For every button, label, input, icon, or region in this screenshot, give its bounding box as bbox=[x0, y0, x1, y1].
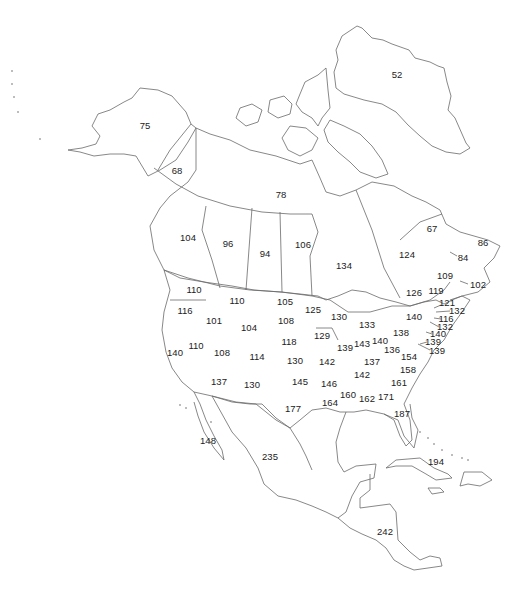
usa-outline bbox=[162, 270, 470, 446]
region-label-wisconsin: 130 bbox=[331, 312, 347, 322]
region-label-new-mexico: 130 bbox=[244, 380, 260, 390]
alaska-outline bbox=[68, 88, 196, 176]
region-label-virginia: 154 bbox=[401, 352, 417, 362]
ontario-quebec-border bbox=[356, 190, 400, 298]
region-label-manitoba: 106 bbox=[295, 240, 311, 250]
region-label-mexico: 235 bbox=[262, 452, 278, 462]
region-label-washington: 110 bbox=[186, 285, 201, 295]
region-label-louisiana: 164 bbox=[322, 398, 338, 408]
region-label-cuba-caribbean: 194 bbox=[428, 457, 444, 467]
region-label-iowa: 129 bbox=[314, 331, 330, 341]
region-label-alabama: 162 bbox=[359, 394, 375, 404]
region-label-quebec: 124 bbox=[399, 250, 415, 260]
pointer-84 bbox=[450, 252, 457, 256]
region-label-maine: 119 bbox=[428, 286, 443, 296]
region-label-nevada: 110 bbox=[188, 341, 203, 351]
region-label-pennsylvania: 138 bbox=[393, 328, 409, 338]
region-label-mississippi: 160 bbox=[340, 390, 356, 400]
region-label-arizona: 137 bbox=[211, 377, 227, 387]
region-label-georgia: 171 bbox=[378, 392, 394, 402]
region-label-wyoming: 104 bbox=[241, 323, 257, 333]
region-label-baja-california: 148 bbox=[200, 436, 216, 446]
region-label-newfoundland: 86 bbox=[478, 238, 489, 248]
region-label-new-york: 140 bbox=[406, 312, 422, 322]
region-label-new-brunswick: 109 bbox=[437, 271, 453, 281]
jamaica-outline bbox=[428, 488, 444, 494]
hispaniola-outline bbox=[460, 472, 492, 486]
bc-alberta-border bbox=[202, 206, 220, 288]
region-label-arkansas: 146 bbox=[321, 379, 337, 389]
region-label-nwt-nunavut: 78 bbox=[276, 190, 287, 200]
region-label-british-columbia: 104 bbox=[180, 233, 196, 243]
region-label-maryland: 139 bbox=[429, 346, 445, 356]
region-label-oklahoma: 145 bbox=[292, 377, 308, 387]
manitoba-ontario-border bbox=[310, 214, 318, 296]
region-label-oregon: 116 bbox=[177, 306, 192, 316]
pointer-132 bbox=[436, 311, 450, 312]
greenland-outline bbox=[334, 26, 470, 154]
region-label-nebraska: 118 bbox=[281, 337, 296, 347]
arctic-islands-outline bbox=[236, 68, 388, 178]
region-label-california: 140 bbox=[167, 348, 183, 358]
region-label-west-virginia: 136 bbox=[384, 345, 400, 355]
region-label-indiana: 143 bbox=[354, 339, 370, 349]
region-label-north-carolina: 158 bbox=[400, 365, 416, 375]
sask-manitoba-border bbox=[280, 212, 282, 292]
region-label-quebec-north: 67 bbox=[427, 224, 438, 234]
yukon-border bbox=[158, 124, 191, 170]
region-label-minnesota: 125 bbox=[305, 305, 321, 315]
region-label-ontario: 134 bbox=[336, 261, 352, 271]
region-label-kansas: 130 bbox=[287, 356, 303, 366]
region-label-yukon: 68 bbox=[172, 166, 183, 176]
region-label-greenland: 52 bbox=[392, 70, 403, 80]
region-label-florida: 187 bbox=[394, 409, 410, 419]
central-america-outline bbox=[338, 474, 442, 570]
region-label-colorado: 114 bbox=[249, 352, 264, 362]
region-label-ottawa-montreal: 126 bbox=[406, 288, 422, 298]
region-label-texas: 177 bbox=[285, 404, 301, 414]
region-label-south-carolina: 161 bbox=[391, 378, 407, 388]
region-label-central-america: 242 bbox=[377, 527, 393, 537]
region-label-utah: 108 bbox=[214, 348, 230, 358]
region-label-tennessee: 142 bbox=[354, 370, 370, 380]
region-label-montana: 110 bbox=[229, 296, 244, 306]
region-label-north-dakota: 105 bbox=[277, 297, 293, 307]
region-label-prince-edward-island: 84 bbox=[458, 253, 469, 263]
region-label-nova-scotia: 102 bbox=[470, 280, 486, 290]
region-label-illinois: 139 bbox=[337, 343, 353, 353]
region-label-alaska: 75 bbox=[140, 121, 151, 131]
alberta-sask-border bbox=[246, 208, 252, 290]
region-label-south-dakota: 108 bbox=[278, 316, 294, 326]
region-label-alberta: 96 bbox=[223, 239, 234, 249]
pointer-102 bbox=[460, 281, 468, 284]
north-america-outline-map bbox=[0, 0, 529, 589]
region-label-michigan: 133 bbox=[359, 320, 375, 330]
region-label-missouri: 142 bbox=[319, 357, 335, 367]
region-label-kentucky: 137 bbox=[364, 357, 380, 367]
region-label-saskatchewan: 94 bbox=[260, 249, 271, 259]
region-label-idaho: 101 bbox=[206, 316, 222, 326]
